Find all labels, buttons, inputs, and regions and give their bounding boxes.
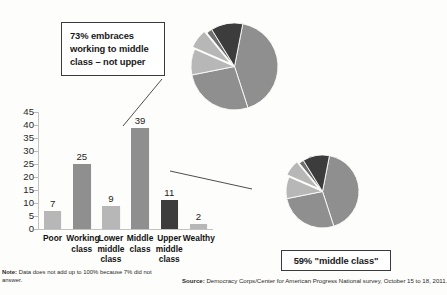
callout-top-text: 73% embraces working to middle class – n… (70, 30, 149, 67)
y-axis-tick-mark (34, 125, 38, 126)
note-label: Note: (2, 269, 17, 275)
callout-top: 73% embraces working to middle class – n… (61, 22, 165, 76)
y-axis-tick-mark (34, 164, 38, 165)
x-axis-line (38, 229, 213, 230)
source-body: Democracy Corps/Center for American Prog… (205, 277, 447, 284)
bar-value-label: 2 (184, 211, 212, 222)
y-axis-tick-label: 35 (8, 132, 34, 143)
x-axis-category-label: Wealthy (183, 233, 214, 244)
y-axis-tick-mark (34, 216, 38, 217)
note-body: Data does not add up to 100% because 7% … (2, 269, 152, 283)
bar (73, 164, 91, 229)
y-axis-tick-label: 0 (8, 223, 34, 234)
bar-chart: 051015202530354045 725939112 PoorWorking… (8, 108, 213, 243)
x-axis-category-label: Uppermiddleclass (154, 233, 185, 265)
bar-value-label: 11 (155, 187, 183, 198)
x-axis-category-label: Workingclass (66, 233, 97, 254)
y-axis-tick-label: 25 (8, 158, 34, 169)
x-axis-category-label: Poor (37, 233, 68, 244)
y-axis-tick-label: 40 (8, 119, 34, 130)
y-axis-tick-mark (34, 112, 38, 113)
y-axis-tick-label: 45 (8, 106, 34, 117)
bar-value-label: 39 (126, 115, 154, 126)
y-axis-tick-mark (34, 203, 38, 204)
bar-value-label: 7 (39, 198, 67, 209)
bar (161, 200, 179, 229)
note-text: Note: Data does not add up to 100% becau… (2, 268, 152, 285)
bar (102, 206, 120, 229)
callout-bottom-text: 59% "middle class" (294, 255, 379, 266)
y-axis-tick-mark (34, 151, 38, 152)
y-axis-tick-label: 10 (8, 197, 34, 208)
y-axis-tick-mark (34, 138, 38, 139)
y-axis-tick-mark (34, 229, 38, 230)
y-axis-tick-mark (34, 190, 38, 191)
y-axis-tick-mark (34, 177, 38, 178)
pie-chart-bottom (281, 148, 364, 237)
x-axis-category-label: Middleclass (125, 233, 156, 254)
y-axis-line (38, 112, 39, 229)
bar (131, 128, 149, 229)
source-label: Source: (182, 277, 205, 284)
y-axis-tick-label: 20 (8, 171, 34, 182)
y-axis-tick-label: 5 (8, 210, 34, 221)
y-axis-tick-label: 15 (8, 184, 34, 195)
bar-value-label: 25 (68, 151, 96, 162)
bar (190, 224, 208, 229)
bar (44, 211, 62, 229)
x-axis-category-label: Lowermiddleclass (95, 233, 126, 265)
pie-chart-top (186, 16, 283, 119)
source-text: Source: Democracy Corps/Center for Ameri… (182, 277, 447, 284)
callout-bottom: 59% "middle class" (281, 250, 391, 271)
bar-value-label: 9 (97, 193, 125, 204)
y-axis-tick-label: 30 (8, 145, 34, 156)
